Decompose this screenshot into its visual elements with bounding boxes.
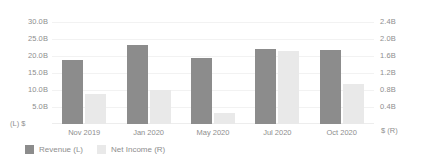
chart-legend: Revenue (L)Net Income (R) (25, 145, 165, 154)
x-axis-tick: Jul 2020 (245, 128, 309, 140)
x-axis-tick: Oct 2020 (310, 128, 374, 140)
legend-label: Net Income (R) (111, 145, 165, 154)
bar-group (181, 14, 245, 124)
x-axis-tick: Jan 2020 (117, 128, 181, 140)
legend-item[interactable]: Net Income (R) (97, 145, 165, 154)
bar-group (117, 14, 181, 124)
y-axis-right-tick: 0.4B (380, 103, 396, 111)
y-axis-left: 30.0B25.0B20.0B15.0B10.0B5.0B (2, 14, 48, 124)
y-axis-right-tick: 0.8B (380, 86, 396, 94)
bar-revenue[interactable] (191, 58, 212, 124)
right-axis-unit-label: $ (R) (381, 127, 398, 135)
bar-net-income[interactable] (343, 84, 364, 124)
bar-group (245, 14, 309, 124)
x-axis-tick: Nov 2019 (52, 128, 116, 140)
y-axis-left-tick: 20.0B (28, 52, 48, 60)
legend-label: Revenue (L) (39, 145, 83, 154)
legend-item[interactable]: Revenue (L) (25, 145, 83, 154)
bar-net-income[interactable] (150, 90, 171, 124)
y-axis-right-tick: 1.6B (380, 52, 396, 60)
x-axis-tick: May 2020 (181, 128, 245, 140)
y-axis-right-tick: 2.4B (380, 18, 396, 26)
left-axis-unit-label: (L) $ (10, 120, 25, 128)
y-axis-left-tick: 30.0B (28, 18, 48, 26)
bar-revenue[interactable] (320, 50, 341, 124)
x-axis: Nov 2019Jan 2020May 2020Jul 2020Oct 2020 (52, 128, 374, 140)
bar-group (52, 14, 116, 124)
bar-net-income[interactable] (278, 51, 299, 124)
bar-net-income[interactable] (85, 94, 106, 124)
bar-chart: 30.0B25.0B20.0B15.0B10.0B5.0B 2.4B2.0B1.… (0, 0, 433, 165)
y-axis-left-tick: 25.0B (28, 35, 48, 43)
legend-swatch-icon (97, 145, 106, 154)
y-axis-right-tick: 2.0B (380, 35, 396, 43)
bars-layer (52, 14, 374, 124)
bar-revenue[interactable] (255, 49, 276, 124)
bar-revenue[interactable] (62, 60, 83, 124)
bar-net-income[interactable] (214, 113, 235, 124)
y-axis-right-tick: 1.2B (380, 69, 396, 77)
bar-revenue[interactable] (127, 45, 148, 124)
y-axis-left-tick: 15.0B (28, 69, 48, 77)
legend-swatch-icon (25, 145, 34, 154)
y-axis-left-tick: 10.0B (28, 86, 48, 94)
bar-group (310, 14, 374, 124)
y-axis-left-tick: 5.0B (32, 103, 48, 111)
y-axis-right: 2.4B2.0B1.6B1.2B0.8B0.4B (380, 14, 430, 124)
